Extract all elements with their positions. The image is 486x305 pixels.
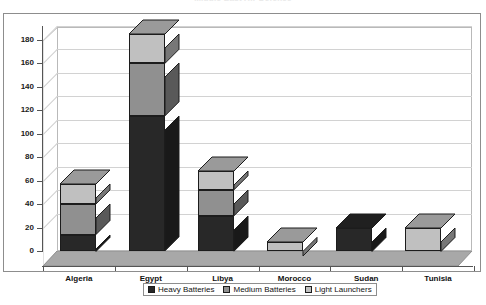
bar-segment-side <box>165 116 179 251</box>
y-axis-label: 40 <box>0 199 34 208</box>
legend-swatch-icon <box>223 286 230 293</box>
bar-segment-face <box>129 63 165 116</box>
bar-segment-side <box>165 34 179 63</box>
y-axis-tick <box>37 181 42 182</box>
x-axis-label-morocco: Morocco <box>254 274 334 283</box>
chart-title: Middle East Air Defence <box>0 0 486 3</box>
gridline <box>57 120 472 121</box>
bar-segment[interactable] <box>198 190 234 216</box>
y-axis-tick <box>37 40 42 41</box>
bar-segment-face <box>198 216 234 251</box>
bar-segment-side <box>372 228 386 251</box>
y-axis-label: 180 <box>0 35 34 44</box>
bar-segment[interactable] <box>60 235 96 251</box>
y-axis-label: 100 <box>0 129 34 138</box>
legend-item[interactable]: Light Launchers <box>305 285 372 294</box>
x-axis-tick <box>187 266 188 271</box>
plot-left-wall <box>43 27 58 265</box>
bar-segment[interactable] <box>336 228 372 251</box>
legend-swatch-icon <box>148 286 155 293</box>
bar-segment-face <box>405 228 441 251</box>
chart-legend: Heavy BatteriesMedium BatteriesLight Lau… <box>143 283 377 296</box>
y-axis-tick <box>37 110 42 111</box>
y-axis-tick <box>37 204 42 205</box>
bar-segment-top <box>267 228 317 242</box>
legend-item[interactable]: Heavy Batteries <box>148 285 214 294</box>
x-axis-tick <box>115 266 116 271</box>
bar-segment[interactable] <box>60 184 96 204</box>
y-axis-label: 60 <box>0 176 34 185</box>
gridline <box>57 167 472 168</box>
x-axis-tick <box>43 266 44 271</box>
bar-segment[interactable] <box>129 34 165 63</box>
x-axis-tick <box>330 266 331 271</box>
y-axis-tick <box>37 87 42 88</box>
bar-segment[interactable] <box>405 228 441 251</box>
y-axis-label: 120 <box>0 105 34 114</box>
bar-segment[interactable] <box>198 171 234 190</box>
bar-segment[interactable] <box>60 204 96 234</box>
bar-segment-side <box>303 242 317 251</box>
bar-segment-side <box>441 228 455 251</box>
x-axis-tick <box>259 266 260 271</box>
legend-item[interactable]: Medium Batteries <box>223 285 295 294</box>
x-axis-label-sudan: Sudan <box>326 274 406 283</box>
x-axis-label-tunisia: Tunisia <box>398 274 478 283</box>
bar-segment-face <box>129 34 165 63</box>
bar-segment-face <box>60 184 96 204</box>
bar-segment-side <box>96 184 110 204</box>
y-axis-label: 0 <box>0 246 34 255</box>
bar-segment-top <box>198 157 248 171</box>
x-axis-tick <box>402 266 403 271</box>
x-axis-label-libya: Libya <box>183 274 263 283</box>
bar-segment-top <box>60 170 110 184</box>
bar-segment-face <box>336 228 372 251</box>
bar-segment-top <box>336 214 386 228</box>
legend-swatch-icon <box>305 286 312 293</box>
bar-segment-face <box>198 190 234 216</box>
bar-segment[interactable] <box>198 216 234 251</box>
y-axis-label: 160 <box>0 58 34 67</box>
bar-segment-face <box>267 242 303 251</box>
bar-segment-face <box>60 235 96 251</box>
gridline <box>57 143 472 144</box>
y-axis-tick <box>37 228 42 229</box>
bar-segment[interactable] <box>267 242 303 251</box>
bar-segment[interactable] <box>129 63 165 116</box>
y-axis-tick <box>37 134 42 135</box>
bar-segment-top <box>405 214 455 228</box>
bar-segment-face <box>129 116 165 251</box>
x-axis-label-egypt: Egypt <box>111 274 191 283</box>
bar-segment[interactable] <box>129 116 165 251</box>
y-axis-tick <box>37 157 42 158</box>
gridline <box>57 96 472 97</box>
y-axis-line <box>42 26 43 252</box>
gridline <box>57 190 472 191</box>
legend-label: Heavy Batteries <box>158 285 214 294</box>
y-axis-tick <box>37 63 42 64</box>
legend-label: Medium Batteries <box>233 285 295 294</box>
chart-canvas: Middle East Air Defence 0204060801001201… <box>0 0 486 305</box>
y-axis-label: 20 <box>0 223 34 232</box>
bar-segment-side <box>234 171 248 190</box>
gridline <box>57 26 472 27</box>
bar-segment-top <box>129 20 179 34</box>
y-axis-label: 140 <box>0 82 34 91</box>
gridline <box>57 73 472 74</box>
x-axis-tick <box>474 266 475 271</box>
y-axis-label: 80 <box>0 152 34 161</box>
x-axis-line <box>42 266 473 267</box>
gridline <box>57 49 472 50</box>
y-axis-tick <box>37 251 42 252</box>
bar-segment-face <box>198 171 234 190</box>
bar-segment-face <box>60 204 96 234</box>
legend-label: Light Launchers <box>315 285 372 294</box>
x-axis-label-algeria: Algeria <box>39 274 119 283</box>
